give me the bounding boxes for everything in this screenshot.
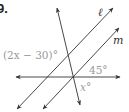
- label-angle-45: 45°: [89, 64, 108, 76]
- label-angle-x: x°: [80, 81, 91, 93]
- label-line-m: m: [113, 34, 123, 47]
- diagram: 9. ℓ m (2x − 30)° 45° x°: [0, 0, 129, 112]
- label-line-l: ℓ: [98, 6, 103, 19]
- label-angle-2x-minus-30: (2x − 30)°: [3, 49, 58, 61]
- problem-number: 9.: [0, 1, 8, 16]
